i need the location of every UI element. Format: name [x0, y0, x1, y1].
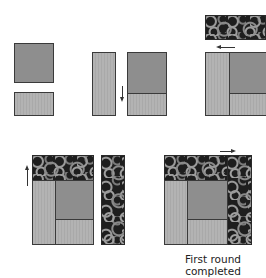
light-rectangle — [187, 219, 228, 245]
light-vertical-strip — [205, 52, 230, 116]
print-horizontal-strip — [205, 15, 266, 40]
arrow-right-head-icon — [231, 149, 236, 153]
center-square — [55, 180, 94, 220]
center-square — [229, 52, 266, 94]
print-vertical-strip — [101, 155, 125, 245]
light-rectangle — [14, 92, 54, 116]
light-vertical-strip — [32, 180, 56, 245]
print-right-strip — [227, 155, 252, 245]
completed-block — [164, 155, 252, 245]
joined-square-rectangle — [127, 52, 167, 116]
center-square — [187, 180, 228, 220]
light-vertical-strip — [164, 180, 188, 245]
caption-line-2: completed — [173, 265, 253, 277]
center-square — [127, 52, 167, 94]
arrow-left-head-icon — [216, 45, 221, 49]
caption-line-1: First round — [173, 253, 253, 265]
caption: First round completed — [173, 253, 253, 277]
assembled-unit-step3 — [205, 52, 266, 116]
print-top-band — [32, 155, 94, 181]
center-square — [14, 43, 54, 83]
light-vertical-strip — [92, 52, 116, 116]
light-rectangle — [229, 93, 266, 116]
print-top-band — [164, 155, 228, 181]
light-rectangle — [55, 219, 94, 245]
assembled-unit-step4 — [32, 155, 94, 245]
arrow-up-head-icon — [25, 165, 29, 170]
light-rectangle — [127, 93, 167, 116]
arrow-down-head-icon — [120, 97, 124, 102]
arrow-up-icon — [27, 170, 28, 186]
arrow-left-icon — [220, 47, 235, 48]
